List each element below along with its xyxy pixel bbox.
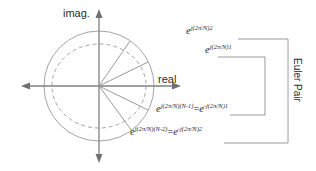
expression-neg1: ej(2π/N)(N-1)=e-j(2π/N)1 [156,103,228,114]
imag-axis-arrow-up [96,9,103,18]
imaginary-axis-label: imag. [63,8,90,19]
real-axis-arrow-left [21,83,30,90]
vector-pos2 [99,41,130,86]
expression-neg1-exponent2: -j(2π/N)1 [204,102,228,109]
expression-pos2: ej(2π/N)2 [186,25,213,36]
vector-pos1 [99,62,148,86]
expression-neg2: ej(2π/N)(N-2)=e-j(2π/N)2 [130,126,202,137]
expression-neg1-exponent: j(2π/N)(N-1) [161,102,194,109]
imag-axis-arrow-down [96,154,103,163]
vector-neg1 [99,86,148,110]
expression-pos1: ej(2π/N)1 [205,44,232,55]
expression-neg2-exponent: j(2π/N)(N-2) [135,125,168,132]
euler-pair-bracket-outer [224,39,288,143]
expression-pos1-exponent: j(2π/N)1 [210,43,232,50]
expression-neg2-exponent2: -j(2π/N)2 [178,125,202,132]
real-axis-label: real [158,74,176,85]
diagram-canvas: imag. real ej(2π/N)2 ej(2π/N)1 ej(2π/N)(… [0,0,316,171]
expression-pos2-exponent: j(2π/N)2 [191,24,213,31]
euler-pair-diagram [0,0,316,171]
vector-neg2 [99,86,132,131]
euler-pair-label: Euler Pair [292,58,303,102]
